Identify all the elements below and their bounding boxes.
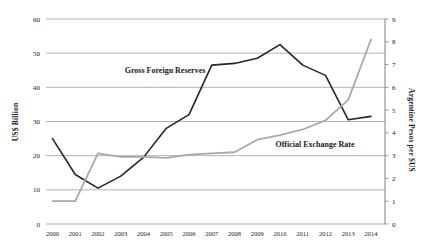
left-axis-tick-label: 30	[33, 118, 41, 126]
x-axis-tick-label: 2012	[319, 230, 332, 237]
x-axis-tick-label: 2014	[365, 230, 379, 237]
x-axis-tick-label: 2004	[137, 230, 151, 237]
right-axis-tick-label: 2	[392, 175, 396, 183]
left-axis-tick-label: 10	[33, 186, 41, 194]
chart-container: 0102030405060012345678920002001200220032…	[0, 0, 427, 250]
left-axis-tick-label: 20	[33, 152, 41, 160]
right-axis-tick-label: 7	[392, 61, 396, 69]
series-label-official-exchange-rate: Official Exchange Rate	[275, 140, 354, 149]
right-axis-tick-label: 1	[392, 198, 396, 206]
x-axis-tick-label: 2011	[296, 230, 309, 237]
left-axis-tick-label: 50	[33, 50, 41, 58]
x-axis-tick-label: 2003	[114, 230, 127, 237]
x-axis-tick-label: 2013	[342, 230, 355, 237]
left-axis-tick-label: 40	[33, 84, 41, 92]
series-label-gross-foreign-reserves: Gross Foreign Reserves	[125, 66, 206, 75]
left-axis-tick-label: 60	[33, 16, 41, 24]
x-axis-tick-label: 2007	[205, 230, 219, 237]
right-axis-tick-label: 3	[392, 152, 396, 160]
right-axis-tick-label: 6	[392, 84, 396, 92]
x-axis-tick-label: 2001	[69, 230, 82, 237]
x-axis-tick-label: 2005	[160, 230, 173, 237]
chart-plot-area: 0102030405060012345678920002001200220032…	[0, 0, 427, 250]
x-axis-tick-label: 2010	[274, 230, 287, 237]
right-axis-tick-label: 9	[392, 16, 396, 24]
left-axis-title: US$ Billion	[11, 103, 20, 142]
x-axis-tick-label: 2008	[228, 230, 241, 237]
right-axis-title: Argentine Pesos per $US	[407, 88, 416, 172]
series-line-official-exchange-rate	[53, 40, 372, 202]
x-axis-tick-label: 2009	[251, 230, 264, 237]
right-axis-tick-label: 4	[392, 129, 396, 137]
right-axis-tick-label: 8	[392, 38, 396, 46]
right-axis-tick-label: 5	[392, 107, 396, 115]
x-axis-tick-label: 2006	[183, 230, 197, 237]
series-line-gross-foreign-reserves	[53, 45, 372, 189]
left-axis-tick-label: 0	[37, 221, 41, 229]
right-axis-tick-label: 0	[392, 221, 396, 229]
x-axis-tick-label: 2000	[46, 230, 59, 237]
x-axis-tick-label: 2002	[92, 230, 105, 237]
